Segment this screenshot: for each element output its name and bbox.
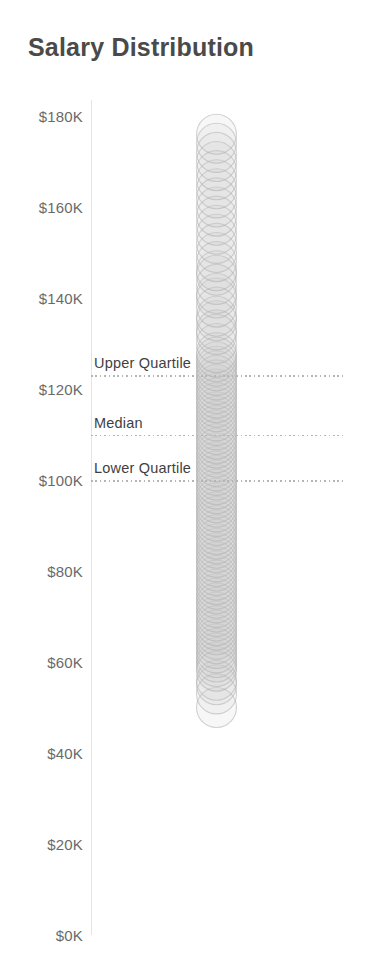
strip-plot-marks (0, 0, 377, 964)
reference-line-median-rule (91, 435, 344, 437)
reference-line-median-label: Median (92, 414, 148, 433)
reference-line-upper-quartile-rule (91, 375, 344, 377)
salary-distribution-chart: Salary Distribution $0K$20K$40K$60K$80K$… (0, 0, 377, 964)
reference-line-upper-quartile-label: Upper Quartile (92, 354, 196, 373)
salary-mark[interactable] (197, 114, 237, 154)
reference-line-lower-quartile-label: Lower Quartile (92, 459, 196, 478)
reference-line-lower-quartile-rule (91, 480, 344, 482)
